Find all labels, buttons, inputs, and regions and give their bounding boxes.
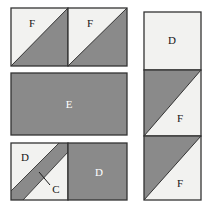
right-top-square: D (144, 12, 201, 70)
bottom-left-square-label: D (21, 151, 29, 163)
stripe-label-c: C (52, 183, 59, 195)
bottom-right-square: D (68, 143, 127, 200)
right-middle-square-label: F (177, 112, 183, 124)
bottom-left-striped-square: D C (11, 143, 68, 200)
top-right-square-label: F (87, 17, 93, 29)
right-top-square-label: D (168, 34, 176, 46)
top-left-square: F (11, 8, 68, 66)
center-rectangle: E (11, 73, 127, 135)
top-left-square-label: F (29, 17, 35, 29)
top-right-square: F (68, 8, 127, 66)
right-bottom-square-label: F (177, 177, 183, 189)
right-bottom-square: F (144, 136, 201, 200)
center-rectangle-label: E (66, 98, 73, 110)
quilt-svg: F F E D C (0, 0, 206, 215)
right-middle-square: F (144, 70, 201, 136)
bottom-right-square-label: D (95, 166, 103, 178)
quilt-diagram: F F E D C (0, 0, 206, 215)
